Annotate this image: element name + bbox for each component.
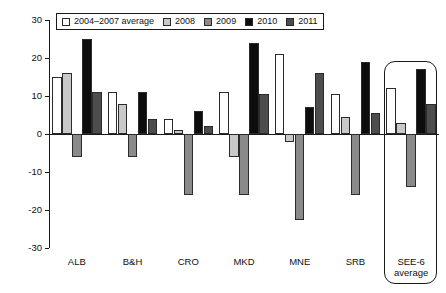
bar	[82, 39, 92, 134]
bar	[184, 134, 194, 195]
bar	[249, 43, 259, 134]
legend-swatch-icon	[286, 18, 294, 26]
y-tick: -30	[49, 248, 50, 249]
bar-group: ALB	[49, 20, 105, 248]
bar	[62, 73, 72, 134]
bar-group: SRB	[328, 20, 384, 248]
x-axis-category-label: ALB	[49, 256, 105, 267]
chart-legend: 2004–2007 average2008200920102011	[56, 13, 324, 30]
y-tick-label: -30	[28, 243, 42, 253]
bars-container	[383, 20, 439, 248]
legend-swatch-icon	[62, 18, 70, 26]
bar	[331, 94, 341, 134]
bar	[315, 73, 325, 134]
bar	[239, 134, 249, 195]
x-axis-category-label: SRB	[328, 256, 384, 267]
plot-area: 3020100-10-20-30 ALBB&HCROMKDMNESRBSEE-6…	[49, 20, 439, 248]
y-tick-label: 30	[31, 15, 42, 25]
bar	[361, 62, 371, 134]
legend-item[interactable]: 2011	[286, 17, 317, 26]
bar	[108, 92, 118, 134]
x-axis-category-label: CRO	[160, 256, 216, 267]
bar	[128, 134, 138, 157]
y-tick-label: 0	[37, 129, 42, 139]
bars-container	[328, 20, 384, 248]
legend-item[interactable]: 2004–2007 average	[62, 17, 154, 26]
legend-item[interactable]: 2008	[163, 17, 195, 26]
bar-group: B&H	[105, 20, 161, 248]
bar	[341, 117, 351, 134]
bar-group: SEE-6 average	[383, 20, 439, 248]
bar	[219, 92, 229, 134]
x-axis-category-label: MNE	[272, 256, 328, 267]
bar	[174, 130, 184, 134]
x-axis-category-label: SEE-6 average	[383, 256, 439, 278]
bar-chart: 2004–2007 average2008200920102011 302010…	[0, 0, 446, 293]
legend-item-label: 2008	[175, 17, 195, 26]
bar	[194, 111, 204, 134]
bars-container	[49, 20, 105, 248]
legend-item-label: 2004–2007 average	[74, 17, 154, 26]
bar	[416, 69, 426, 134]
bar	[164, 119, 174, 134]
legend-item-label: 2011	[298, 17, 317, 26]
bar	[72, 134, 82, 157]
x-axis-category-label: B&H	[105, 256, 161, 267]
legend-swatch-icon	[245, 18, 253, 26]
bar	[259, 94, 269, 134]
bar	[204, 126, 214, 134]
bar	[118, 104, 128, 134]
x-axis-category-label: MKD	[216, 256, 272, 267]
legend-item-label: 2010	[257, 17, 277, 26]
bar	[285, 134, 295, 142]
bar-group: MNE	[272, 20, 328, 248]
bar	[229, 134, 239, 157]
y-tick-mark	[45, 248, 49, 249]
bar	[396, 123, 406, 134]
bar	[275, 54, 285, 134]
bars-container	[272, 20, 328, 248]
bar	[386, 88, 396, 134]
y-tick-label: -10	[28, 167, 42, 177]
bar	[92, 92, 102, 134]
y-tick-label: -20	[28, 205, 42, 215]
y-tick-label: 20	[31, 53, 42, 63]
bar	[426, 104, 436, 134]
bar	[406, 134, 416, 187]
bar	[305, 107, 315, 134]
bar	[52, 77, 62, 134]
bar-group: CRO	[160, 20, 216, 248]
bar-group: MKD	[216, 20, 272, 248]
legend-item[interactable]: 2010	[245, 17, 277, 26]
bars-container	[105, 20, 161, 248]
y-tick-label: 10	[31, 91, 42, 101]
legend-swatch-icon	[163, 18, 171, 26]
bar	[138, 92, 148, 134]
bar	[295, 134, 305, 220]
bar	[371, 113, 381, 134]
bar	[148, 119, 158, 134]
bars-container	[216, 20, 272, 248]
legend-item-label: 2009	[216, 17, 236, 26]
legend-swatch-icon	[204, 18, 212, 26]
bar	[351, 134, 361, 195]
bars-container	[160, 20, 216, 248]
legend-item[interactable]: 2009	[204, 17, 236, 26]
